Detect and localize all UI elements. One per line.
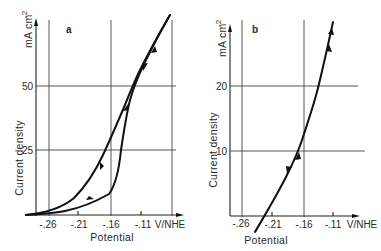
x-tick-016: -.16: [295, 219, 313, 230]
unit-exponent: -2: [20, 10, 29, 18]
figure: 50 25 -.26 -.21 -.16 -.11 V/NHE Potentia…: [0, 0, 381, 251]
unit-exponent: -2: [214, 19, 223, 27]
y-axis-label: Current density: [207, 112, 219, 188]
y-unit-label: mA cm -2: [214, 19, 228, 57]
x-tick-021: -.21: [264, 219, 282, 230]
y-tick-50: 50: [22, 81, 34, 92]
sweep-direction-arrow-icon: [86, 196, 94, 200]
x-axis-label: Potential: [244, 234, 288, 246]
x-tick-011: -.11: [135, 219, 152, 230]
curve-a-reverse: [26, 15, 170, 215]
x-tick-016: -.16: [102, 219, 120, 230]
x-unit: V/NHE: [155, 219, 186, 230]
x-tick-021: -.21: [70, 219, 88, 230]
y-axis-arrow-icon: [228, 24, 232, 32]
y-unit-label: mA cm -2: [20, 10, 34, 48]
panel-b: 20 10 -.26 -.21 -.16 -.11 V/NHE Potentia…: [207, 19, 378, 246]
sweep-direction-arrow-icon: [142, 63, 148, 71]
curve-a-forward: [26, 15, 170, 215]
y-axis-arrow-icon: [34, 18, 38, 26]
x-unit: V/NHE: [347, 219, 378, 230]
y-axis-label: Current density: [13, 120, 25, 196]
x-axis-arrow-icon: [176, 213, 184, 217]
sweep-direction-arrow-icon: [100, 162, 104, 170]
x-tick-026: -.26: [39, 219, 57, 230]
y-tick-20: 20: [216, 81, 228, 92]
panel-a: 50 25 -.26 -.21 -.16 -.11 V/NHE Potentia…: [13, 10, 186, 243]
unit-text: mA cm: [216, 23, 228, 57]
x-axis-label: Potential: [90, 231, 134, 243]
unit-text: mA cm: [22, 14, 34, 48]
x-tick-026: -.26: [232, 218, 250, 229]
x-tick-011: -.11: [325, 219, 342, 230]
panel-label-b: b: [252, 24, 258, 35]
curve-b: [255, 22, 333, 232]
x-axis-arrow-icon: [352, 214, 360, 218]
panel-label-a: a: [66, 24, 72, 35]
